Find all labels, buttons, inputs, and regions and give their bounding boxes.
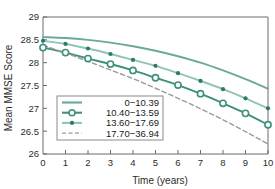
data-point-marker — [266, 106, 270, 110]
y-tick-label: 27.5 — [21, 80, 40, 91]
data-point-marker — [131, 58, 135, 62]
legend-key-marker-1 — [69, 110, 75, 116]
data-point-marker — [153, 64, 157, 68]
x-tick-label: 3 — [108, 157, 113, 168]
x-tick-label: 0 — [40, 157, 45, 168]
data-point-marker — [40, 45, 46, 51]
x-tick-label: 10 — [263, 157, 274, 168]
y-axis-title: Mean MMSE Score — [3, 44, 14, 131]
x-tick-label: 6 — [175, 157, 180, 168]
x-tick-label: 7 — [198, 157, 203, 168]
data-point-marker — [86, 46, 90, 50]
y-tick-label: 28.5 — [21, 34, 40, 45]
data-point-marker — [176, 71, 180, 75]
y-tick-label: 29 — [28, 11, 39, 22]
x-axis-title: Time (years) — [132, 175, 188, 186]
data-point-marker — [175, 82, 181, 88]
data-point-marker — [108, 52, 112, 56]
x-tick-label: 8 — [220, 157, 225, 168]
data-point-marker — [221, 87, 225, 91]
x-tick-label: 4 — [130, 157, 135, 168]
y-axis-tick-labels: 2626.52727.52828.529 — [21, 11, 40, 159]
data-point-marker — [220, 100, 226, 106]
legend-key-marker-2 — [70, 121, 74, 125]
data-point-marker — [198, 79, 202, 83]
y-tick-label: 26.5 — [21, 126, 40, 137]
data-point-marker — [197, 91, 203, 97]
data-point-marker — [107, 61, 113, 67]
x-tick-label: 5 — [153, 157, 158, 168]
data-point-marker — [62, 50, 68, 56]
x-tick-label: 9 — [243, 157, 248, 168]
y-tick-label: 26 — [28, 148, 39, 159]
x-tick-label: 1 — [63, 157, 68, 168]
data-point-marker — [41, 39, 45, 43]
chart-canvas: 2626.52727.52828.529 012345678910 0−10.3… — [0, 0, 275, 189]
data-point-marker — [85, 55, 91, 61]
legend-label-3: 17.70−36.94 — [106, 128, 159, 139]
x-axis-ticks — [66, 150, 269, 154]
y-tick-label: 27 — [28, 103, 39, 114]
x-tick-label: 2 — [85, 157, 90, 168]
data-point-marker — [243, 96, 247, 100]
data-point-marker — [265, 122, 271, 128]
x-axis-tick-labels: 012345678910 — [40, 157, 273, 168]
data-point-marker — [63, 42, 67, 46]
mmse-decline-chart: 2626.52727.52828.529 012345678910 0−10.3… — [0, 0, 275, 189]
data-point-marker — [242, 110, 248, 116]
data-point-marker — [130, 67, 136, 73]
chart-legend: 0−10.3910.40−13.5913.60−17.6917.70−36.94 — [57, 96, 163, 140]
data-point-marker — [152, 75, 158, 81]
y-tick-label: 28 — [28, 57, 39, 68]
